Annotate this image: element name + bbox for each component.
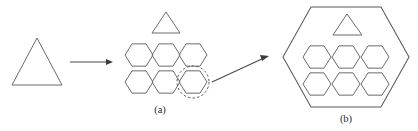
hexagon bbox=[303, 73, 331, 95]
zoom-arrow-head bbox=[260, 55, 269, 61]
source-triangle bbox=[12, 38, 62, 85]
transform-arrow-head bbox=[106, 59, 113, 65]
hexagon bbox=[332, 46, 360, 68]
hexagon bbox=[152, 71, 180, 93]
figure-container: (a) (b) bbox=[0, 0, 418, 131]
hexagon bbox=[152, 44, 180, 66]
hexagon bbox=[125, 44, 153, 66]
inner-triangle bbox=[333, 14, 362, 35]
cluster-triangle bbox=[152, 12, 180, 33]
large-hexagon bbox=[283, 7, 409, 107]
hexagon bbox=[179, 44, 207, 66]
hexagon bbox=[179, 71, 207, 93]
panel-b-caption: (b) bbox=[340, 113, 353, 125]
zoom-arrow-line bbox=[212, 58, 264, 82]
diagram-canvas: (a) (b) bbox=[0, 0, 418, 131]
hexagon bbox=[125, 71, 153, 93]
panel-a-caption: (a) bbox=[154, 104, 166, 116]
hexagon-cluster bbox=[125, 44, 207, 93]
inner-hexagon-group bbox=[303, 46, 389, 95]
hexagon bbox=[332, 73, 360, 95]
hexagon bbox=[361, 46, 389, 68]
hexagon bbox=[303, 46, 331, 68]
transform-arrow bbox=[70, 59, 113, 65]
hexagon bbox=[361, 73, 389, 95]
zoom-arrow bbox=[212, 55, 269, 82]
